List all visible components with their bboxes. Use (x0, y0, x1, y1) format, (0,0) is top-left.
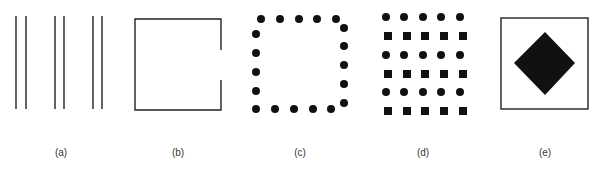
panel-d-label: (d) (403, 147, 443, 158)
panel-a-label: (a) (41, 147, 81, 158)
panel-b-label: (b) (158, 147, 198, 158)
panel-e-figure-ground (501, 18, 588, 109)
panel-d-similarity-grid (382, 13, 467, 115)
panel-e-label: (e) (525, 147, 565, 158)
panel-a-line-pairs (16, 16, 102, 109)
panel-b-open-square (135, 19, 221, 110)
panel-c-label: (c) (280, 147, 320, 158)
panel-c-dotted-square (252, 15, 348, 113)
